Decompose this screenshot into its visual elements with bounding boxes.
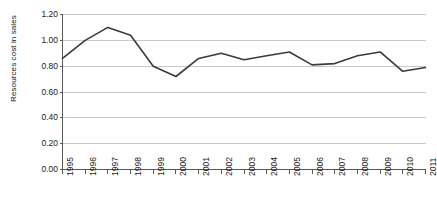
x-axis-tick-label: 2004	[270, 157, 279, 176]
x-axis-tick-label: 2000	[179, 157, 188, 176]
x-axis-tick-label: 2005	[293, 157, 302, 176]
x-axis-tick-label: 2002	[225, 157, 234, 176]
x-axis-tick-label: 2008	[361, 157, 370, 176]
x-axis-tick-label: 2001	[202, 157, 211, 176]
line-chart: Resources cost in sales 0.000.200.400.60…	[0, 0, 437, 217]
x-axis-tick-labels: 1995199619971998199920002001200220032004…	[0, 0, 437, 217]
x-axis-tick-label: 2003	[248, 157, 257, 176]
x-axis-tick-label: 1997	[111, 157, 120, 176]
x-axis-tick-label: 2006	[316, 157, 325, 176]
x-axis-tick-label: 2011	[429, 157, 437, 175]
x-axis-tick-label: 1995	[66, 157, 75, 176]
x-axis-tick-label: 1998	[134, 157, 143, 176]
x-axis-tick-label: 2009	[384, 157, 393, 176]
x-axis-tick-label: 1999	[157, 157, 166, 176]
x-axis-tick-label: 1996	[89, 157, 98, 176]
x-axis-tick-label: 2010	[406, 157, 415, 176]
x-axis-tick-label: 2007	[338, 157, 347, 176]
